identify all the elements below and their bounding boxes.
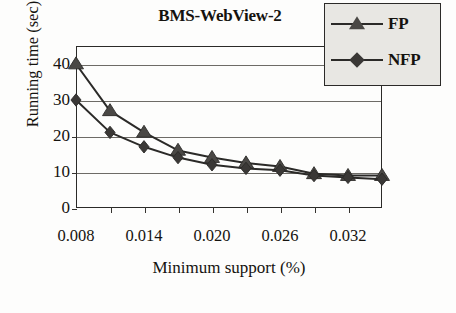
y-tick-label-30: 30 bbox=[38, 90, 70, 110]
x-tick-1 bbox=[111, 207, 112, 213]
y-tick-label-0: 0 bbox=[38, 198, 70, 218]
gridline-y-30 bbox=[77, 101, 381, 102]
x-tick-8 bbox=[349, 207, 350, 213]
x-tick-7 bbox=[315, 207, 316, 213]
legend-label-fp: FP bbox=[385, 14, 408, 34]
y-tick-10 bbox=[72, 173, 77, 174]
x-tick-5 bbox=[247, 207, 248, 213]
legend-item-nfp[interactable]: NFP bbox=[329, 48, 438, 72]
gridline-y-10 bbox=[77, 173, 381, 174]
legend-label-nfp: NFP bbox=[385, 50, 420, 70]
y-axis-tick-labels: 010203040 bbox=[36, 46, 70, 208]
y-tick-40 bbox=[72, 65, 77, 66]
chart-figure: BMS-WebView-2 Running time (sec) 0102030… bbox=[0, 0, 456, 313]
legend-sample-nfp bbox=[329, 50, 385, 70]
x-tick-6 bbox=[281, 207, 282, 213]
x-axis-title: Minimum support (%) bbox=[76, 258, 382, 278]
chart-legend: FP NFP bbox=[324, 3, 441, 86]
y-tick-label-40: 40 bbox=[38, 54, 70, 74]
x-tick-3 bbox=[179, 207, 180, 213]
triangle-marker-icon bbox=[349, 16, 365, 29]
legend-item-fp[interactable]: FP bbox=[329, 12, 438, 36]
y-tick-label-20: 20 bbox=[38, 126, 70, 146]
y-tick-20 bbox=[72, 137, 77, 138]
diamond-marker-icon bbox=[349, 52, 365, 68]
x-tick-label-0.014: 0.014 bbox=[114, 226, 174, 246]
x-axis-tick-labels: 0.0080.0140.0200.0260.032 bbox=[76, 226, 382, 248]
y-tick-label-10: 10 bbox=[38, 162, 70, 182]
x-tick-4 bbox=[213, 207, 214, 213]
chart-title: BMS-WebView-2 bbox=[105, 6, 335, 26]
y-tick-0 bbox=[72, 209, 77, 210]
x-tick-2 bbox=[145, 207, 146, 213]
y-tick-30 bbox=[72, 101, 77, 102]
x-tick-label-0.032: 0.032 bbox=[318, 226, 378, 246]
x-tick-label-0.020: 0.020 bbox=[182, 226, 242, 246]
gridline-y-20 bbox=[77, 137, 381, 138]
x-tick-label-0.026: 0.026 bbox=[250, 226, 310, 246]
legend-sample-fp bbox=[329, 14, 385, 34]
x-tick-label-0.008: 0.008 bbox=[46, 226, 106, 246]
